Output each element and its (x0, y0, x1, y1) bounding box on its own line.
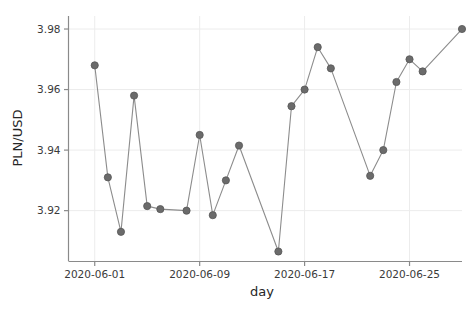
x-tick-label: 2020-06-17 (274, 268, 335, 280)
x-tick-label: 2020-06-25 (379, 268, 440, 280)
data-point-marker (183, 207, 190, 214)
data-point-marker (419, 68, 426, 75)
data-point-marker (393, 78, 400, 85)
line-chart: 3.923.943.963.98 2020-06-012020-06-09202… (0, 0, 475, 312)
data-point-marker (130, 92, 137, 99)
data-point-marker (314, 44, 321, 51)
data-point-marker (458, 25, 465, 32)
x-tick-label: 2020-06-01 (64, 268, 125, 280)
y-tick-label: 3.94 (37, 144, 61, 156)
x-tick-label: 2020-06-09 (169, 268, 230, 280)
data-point-marker (157, 206, 164, 213)
y-tick-label: 3.96 (37, 83, 61, 95)
data-point-marker (275, 248, 282, 255)
data-point-marker (367, 172, 374, 179)
x-axis-title: day (250, 284, 274, 299)
data-point-marker (235, 142, 242, 149)
data-point-marker (144, 203, 151, 210)
data-point-marker (406, 56, 413, 63)
y-tick-label: 3.98 (37, 23, 60, 35)
chart-container: 3.923.943.963.98 2020-06-012020-06-09202… (0, 0, 475, 312)
data-point-marker (117, 228, 124, 235)
chart-background (0, 0, 475, 312)
data-point-marker (104, 174, 111, 181)
data-point-marker (288, 103, 295, 110)
data-point-marker (196, 131, 203, 138)
data-point-marker (222, 177, 229, 184)
data-point-marker (209, 212, 216, 219)
data-point-marker (380, 147, 387, 154)
data-point-marker (301, 86, 308, 93)
y-tick-label: 3.92 (37, 204, 60, 216)
y-axis-title: PLN/USD (10, 110, 25, 167)
data-point-marker (91, 62, 98, 69)
data-point-marker (327, 65, 334, 72)
